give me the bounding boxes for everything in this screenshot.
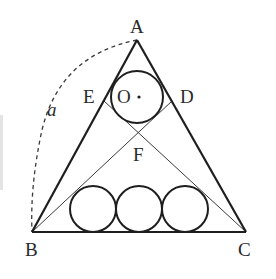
label-c-vertex: C bbox=[238, 239, 251, 260]
label-f: F bbox=[133, 144, 144, 165]
bottom-circle-2 bbox=[116, 186, 162, 232]
line-b-to-d bbox=[32, 101, 172, 232]
label-a-vertex: A bbox=[130, 16, 144, 37]
geometry-figure: A B C E D O F a bbox=[0, 0, 276, 279]
center-dot-o bbox=[137, 95, 140, 98]
label-d: D bbox=[180, 86, 194, 107]
label-b-vertex: B bbox=[25, 239, 38, 260]
label-arc-a: a bbox=[47, 99, 57, 120]
bottom-circle-1 bbox=[70, 186, 116, 232]
label-o: O bbox=[117, 86, 131, 107]
bottom-circle-3 bbox=[162, 186, 208, 232]
side-ab bbox=[32, 40, 137, 232]
diagram-canvas: A B C E D O F a bbox=[0, 0, 276, 279]
side-ac bbox=[137, 40, 246, 232]
label-e: E bbox=[83, 86, 95, 107]
